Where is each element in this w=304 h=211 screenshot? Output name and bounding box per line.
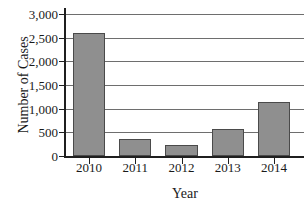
- bar: [73, 33, 105, 156]
- x-axis-tick-label: 2014: [249, 160, 299, 175]
- x-axis-title: Year: [66, 186, 304, 202]
- x-axis-tick-label: 2010: [64, 160, 114, 175]
- y-axis-tick-labels: 05001,0001,5002,0002,5003,000: [14, 8, 58, 158]
- y-axis-tick-label: 1,500: [14, 79, 58, 92]
- y-axis-tick-label: 2,000: [14, 55, 58, 68]
- x-axis-tick-label: 2011: [110, 160, 160, 175]
- gridline: [66, 14, 304, 15]
- x-axis-line: [64, 156, 304, 158]
- bar-chart-figure: Number of Cases 05001,0001,5002,0002,500…: [0, 0, 304, 211]
- y-axis-tick-label: 3,000: [14, 8, 58, 21]
- bar: [212, 129, 244, 156]
- x-axis-tick-labels: 20102011201220132014: [66, 160, 304, 178]
- y-axis-tick-label: 0: [14, 150, 58, 163]
- y-axis-tick-label: 2,500: [14, 31, 58, 44]
- y-axis-tick-label: 500: [14, 126, 58, 139]
- bar: [119, 139, 151, 157]
- bar: [258, 102, 290, 156]
- y-axis-tick-label: 1,000: [14, 102, 58, 115]
- bar: [165, 145, 197, 156]
- x-axis-tick-label: 2012: [157, 160, 207, 175]
- plot-area: [66, 14, 297, 156]
- y-axis-line: [64, 8, 66, 158]
- x-axis-tick-label: 2013: [203, 160, 253, 175]
